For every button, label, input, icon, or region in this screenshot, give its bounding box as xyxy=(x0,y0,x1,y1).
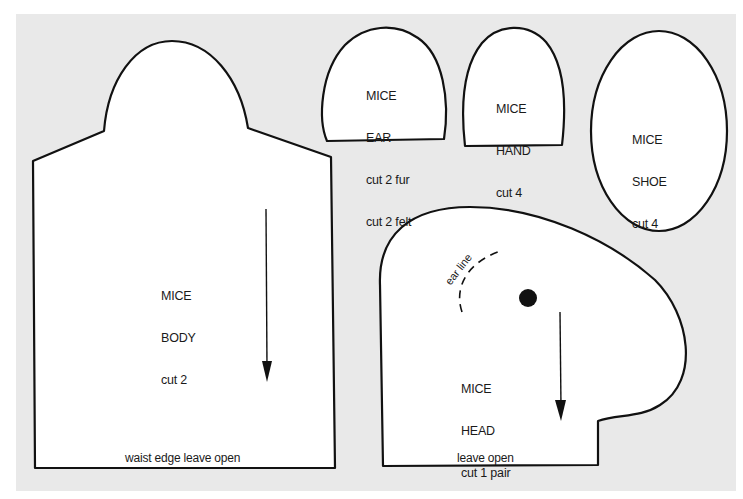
body-part: BODY xyxy=(161,331,196,345)
hand-name: MICE xyxy=(496,102,531,116)
body-piece xyxy=(33,41,335,468)
body-grainline-icon xyxy=(266,209,267,368)
shoe-part: SHOE xyxy=(632,175,667,189)
body-name: MICE xyxy=(161,289,196,303)
body-edge-note: waist edge leave open xyxy=(125,451,240,465)
body-instruction: cut 2 xyxy=(161,373,196,387)
head-piece xyxy=(380,207,686,466)
eye-marker-icon xyxy=(519,289,537,307)
ear-instruction-felt: cut 2 felt xyxy=(366,215,411,229)
head-edge-note: leave open xyxy=(457,451,514,465)
body-label: MICE BODY cut 2 xyxy=(161,261,196,401)
shoe-instruction: cut 4 xyxy=(632,217,667,231)
ear-instruction-fur: cut 2 fur xyxy=(366,173,411,187)
shoe-label: MICE SHOE cut 4 xyxy=(632,105,667,245)
ear-label: MICE EAR cut 2 fur cut 2 felt xyxy=(366,61,411,243)
head-part: HEAD xyxy=(461,424,510,438)
ear-name: MICE xyxy=(366,89,411,103)
hand-part: HAND xyxy=(496,144,531,158)
ear-part: EAR xyxy=(366,131,411,145)
head-name: MICE xyxy=(461,382,510,396)
head-label: MICE HEAD cut 1 pair xyxy=(461,354,510,494)
head-instruction: cut 1 pair xyxy=(461,466,510,480)
head-grainline-icon xyxy=(560,312,561,408)
shoe-name: MICE xyxy=(632,133,667,147)
hand-instruction: cut 4 xyxy=(496,186,531,200)
hand-label: MICE HAND cut 4 xyxy=(496,74,531,214)
